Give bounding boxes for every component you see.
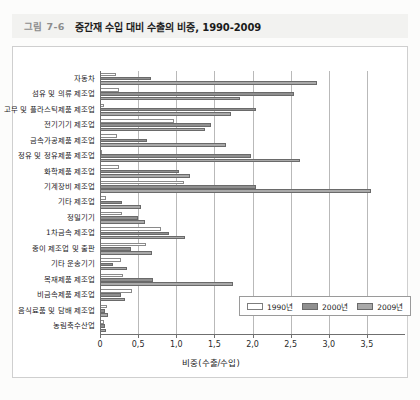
category-label: 농림축수산업	[53, 322, 95, 329]
bar-s2009	[100, 174, 190, 178]
chart-row: 1차금속 제조업	[100, 226, 405, 241]
x-tick-label: 0	[97, 340, 102, 349]
category-label: 종이 제조업 및 출판	[32, 245, 95, 252]
bar-s2009	[100, 267, 127, 271]
category-label: 섬유 및 의류 제조업	[32, 90, 95, 97]
category-label: 고무 및 플라스틱제품 제조업	[4, 106, 95, 113]
bar-s2000	[100, 201, 122, 205]
category-label: 음식료품 및 담배 제조업	[18, 307, 95, 314]
bar-s1990	[100, 274, 123, 278]
category-label: 1차금속 제조업	[46, 229, 95, 236]
chart-row: 기타 제조업	[100, 195, 405, 210]
x-tick	[367, 334, 368, 338]
x-tick	[214, 334, 215, 338]
category-label: 전기기기 제조업	[44, 121, 95, 128]
bar-s2009	[100, 143, 226, 147]
category-label: 금속가공제품 제조업	[30, 137, 95, 144]
bar-s1990	[100, 181, 184, 185]
bar-s2009	[100, 159, 300, 163]
figure-caption-bar: 그림 7-6 중간재 수입 대비 수출의 비중, 1990-2009	[12, 14, 408, 38]
x-tick-label: 1,0	[170, 340, 183, 349]
x-tick	[329, 334, 330, 338]
bar-s2000	[100, 293, 121, 297]
chart-row: 자동차	[100, 71, 405, 86]
bar-s2009	[100, 128, 205, 132]
bar-s2000	[100, 185, 256, 189]
legend-label: 2009년	[377, 301, 403, 312]
figure-container: 그림 7-6 중간재 수입 대비 수출의 비중, 1990-2009 자동차섬유…	[0, 0, 420, 400]
x-tick-label: 3,5	[361, 340, 374, 349]
bar-s1990	[100, 73, 116, 77]
bar-s2009	[100, 81, 317, 85]
figure-number: 그림 7-6	[24, 19, 65, 33]
x-tick	[138, 334, 139, 338]
category-label: 목재제품 제조업	[44, 276, 95, 283]
bar-s2009	[100, 236, 185, 240]
bar-s2009	[100, 112, 231, 116]
bar-s1990	[100, 227, 161, 231]
legend-label: 2000년	[322, 301, 348, 312]
bar-s2009	[100, 189, 371, 193]
bar-s2009	[100, 205, 141, 209]
chart-row: 금속가공제품 제조업	[100, 133, 405, 148]
bar-s2000	[100, 247, 131, 251]
bar-s2009	[100, 313, 108, 317]
x-axis-label: 비중(수출/수입)	[13, 356, 409, 368]
chart-row: 기계장비 제조업	[100, 179, 405, 194]
bar-s2000	[100, 123, 211, 127]
x-tick	[100, 334, 101, 338]
chart-row: 고무 및 플라스틱제품 제조업	[100, 102, 405, 117]
y-axis-line	[100, 71, 101, 334]
legend-item: 2000년	[302, 301, 348, 312]
category-label: 정유 및 정유제품 제조업	[18, 152, 95, 159]
bar-s1990	[100, 212, 122, 216]
legend-swatch-s2009	[357, 303, 373, 310]
category-label: 비금속제품 제조업	[37, 291, 95, 298]
chart-row: 정유 및 정유제품 제조업	[100, 148, 405, 163]
category-label: 기타 운송기기	[51, 260, 95, 267]
chart-row: 종이 제조업 및 출판	[100, 241, 405, 256]
chart-row: 화학제품 제조업	[100, 164, 405, 179]
bar-s2000	[100, 216, 138, 220]
x-tick	[253, 334, 254, 338]
bar-s2000	[100, 278, 153, 282]
category-label: 정밀기기	[67, 214, 95, 221]
bar-s2000	[100, 108, 256, 112]
bar-s2009	[100, 220, 145, 224]
chart-row: 목재제품 제조업	[100, 272, 405, 287]
x-tick-label: 0,5	[132, 340, 145, 349]
x-tick	[291, 334, 292, 338]
x-tick	[176, 334, 177, 338]
x-tick-label: 2,5	[284, 340, 297, 349]
chart-row: 정밀기기	[100, 210, 405, 225]
x-tick-label: 2,0	[246, 340, 259, 349]
legend-item: 2009년	[357, 301, 403, 312]
bar-s1990	[100, 119, 174, 123]
bar-s2000	[100, 170, 179, 174]
category-label: 기계장비 제조업	[44, 183, 95, 190]
bar-s1990	[100, 289, 132, 293]
bar-s1990	[100, 243, 146, 247]
legend-item: 1990년	[247, 301, 293, 312]
chart-legend: 1990년2000년2009년	[239, 296, 411, 316]
chart-row: 전기기기 제조업	[100, 117, 405, 132]
chart-row: 농림축수산업	[100, 319, 405, 334]
bar-s1990	[100, 258, 121, 262]
legend-swatch-s1990	[247, 303, 263, 310]
bar-s1990	[100, 165, 119, 169]
bar-s1990	[100, 305, 107, 309]
category-label: 자동차	[74, 75, 95, 82]
x-tick-label: 3,0	[322, 340, 335, 349]
bar-s2000	[100, 154, 251, 158]
bar-s2009	[100, 97, 240, 101]
bar-s2000	[100, 77, 151, 81]
chart-row: 기타 운송기기	[100, 257, 405, 272]
chart-row: 섬유 및 의류 제조업	[100, 86, 405, 101]
legend-label: 1990년	[267, 301, 293, 312]
chart-plot-frame: 자동차섬유 및 의류 제조업고무 및 플라스틱제품 제조업전기기기 제조업금속가…	[12, 46, 408, 378]
bar-s2000	[100, 92, 294, 96]
bar-s2000	[100, 232, 169, 236]
category-label: 화학제품 제조업	[44, 168, 95, 175]
bar-s1990	[100, 134, 117, 138]
figure-title: 중간재 수입 대비 수출의 비중, 1990-2009	[75, 19, 261, 34]
